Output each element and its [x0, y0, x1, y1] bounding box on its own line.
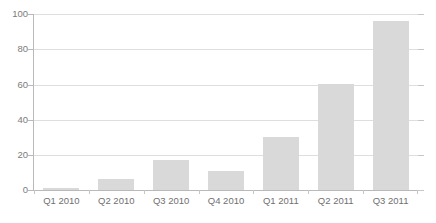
bar-q4-2010[interactable] [208, 171, 244, 190]
y-tick-mark-right [418, 85, 424, 86]
x-axis-line [33, 190, 418, 191]
y-axis-tick-label: 0 [2, 185, 28, 195]
x-tick-mark [363, 190, 364, 194]
x-axis-label-q1-2010: Q1 2010 [34, 195, 89, 207]
bar-chart: 100 80 60 40 20 0 [0, 0, 436, 223]
x-tick-mark [253, 190, 254, 194]
y-axis-tick-label: 80 [2, 44, 28, 54]
x-axis-label-q4-2010: Q4 2010 [199, 195, 254, 207]
bar-slot [308, 14, 363, 190]
x-axis-labels: Q1 2010 Q2 2010 Q3 2010 Q4 2010 Q1 2011 … [34, 195, 418, 207]
bar-q2-2011[interactable] [318, 84, 354, 190]
x-tick-mark [144, 190, 145, 194]
bar-q1-2010[interactable] [43, 188, 79, 190]
x-axis-label-q3-2011: Q3 2011 [363, 195, 418, 207]
bar-slot [89, 14, 144, 190]
x-tick-mark [417, 190, 418, 194]
y-tick-mark-right [418, 155, 424, 156]
bar-q1-2011[interactable] [263, 137, 299, 190]
y-axis-tick-label: 60 [2, 80, 28, 90]
y-axis-tick-label: 20 [2, 150, 28, 160]
y-tick-mark-right [418, 49, 424, 50]
y-tick-mark-right [418, 120, 424, 121]
x-axis-label-q3-2010: Q3 2010 [144, 195, 199, 207]
bar-q3-2011[interactable] [373, 21, 409, 190]
x-axis-label-q2-2011: Q2 2011 [308, 195, 363, 207]
y-tick-mark-right [418, 190, 424, 191]
x-tick-mark [199, 190, 200, 194]
x-axis-label-q2-2010: Q2 2010 [89, 195, 144, 207]
bar-slot [363, 14, 418, 190]
x-tick-mark [308, 190, 309, 194]
bar-series [34, 14, 418, 190]
bar-slot [199, 14, 254, 190]
bar-q2-2010[interactable] [98, 179, 134, 190]
bar-slot [144, 14, 199, 190]
y-tick-mark-right [418, 14, 424, 15]
x-tick-mark [89, 190, 90, 194]
x-axis-label-q1-2011: Q1 2011 [253, 195, 308, 207]
bar-slot [253, 14, 308, 190]
y-axis-tick-label: 40 [2, 115, 28, 125]
y-axis-tick-label: 100 [2, 9, 28, 19]
bar-q3-2010[interactable] [153, 160, 189, 190]
x-tick-mark [34, 190, 35, 194]
bar-slot [34, 14, 89, 190]
